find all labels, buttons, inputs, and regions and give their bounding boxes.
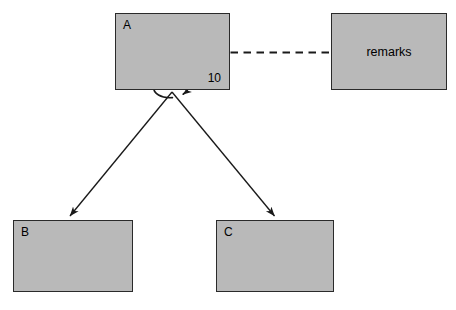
node-remarks[interactable]: remarks — [331, 13, 447, 90]
diagram-canvas: A 10 remarks B C — [0, 0, 456, 310]
node-a-label: A — [123, 19, 131, 32]
node-c[interactable]: C — [216, 220, 334, 292]
node-c-label: C — [224, 226, 233, 239]
node-b-label: B — [21, 226, 29, 239]
node-remarks-label: remarks — [332, 14, 446, 89]
edge-a-to-b — [70, 92, 172, 216]
node-a[interactable]: A 10 — [115, 13, 230, 90]
node-a-multiplicity: 10 — [208, 72, 221, 85]
edge-a-to-c — [172, 92, 275, 216]
node-b[interactable]: B — [13, 220, 133, 292]
